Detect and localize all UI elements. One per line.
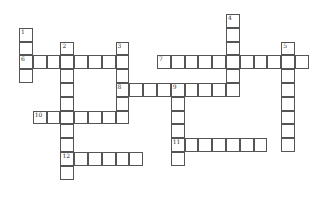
crossword-cell[interactable]	[171, 124, 185, 138]
crossword-cell[interactable]	[226, 42, 240, 56]
crossword-cell[interactable]: 1	[19, 28, 33, 42]
crossword-cell[interactable]	[129, 83, 143, 97]
crossword-cell[interactable]	[74, 111, 88, 125]
crossword-cell[interactable]	[171, 111, 185, 125]
crossword-cell[interactable]	[226, 28, 240, 42]
crossword-cell[interactable]	[102, 111, 116, 125]
crossword-cell[interactable]	[185, 83, 199, 97]
crossword-cell[interactable]	[281, 83, 295, 97]
crossword-cell[interactable]: 5	[281, 42, 295, 56]
crossword-cell[interactable]	[157, 83, 171, 97]
crossword-cell[interactable]	[116, 55, 130, 69]
clue-number: 3	[118, 43, 122, 49]
crossword-cell[interactable]	[254, 138, 268, 152]
crossword-cell[interactable]	[33, 55, 47, 69]
crossword-cell[interactable]	[281, 138, 295, 152]
crossword-cell[interactable]	[281, 111, 295, 125]
crossword-cell[interactable]	[240, 138, 254, 152]
crossword-cell[interactable]	[60, 138, 74, 152]
clue-number: 7	[159, 56, 163, 62]
crossword-cell[interactable]	[185, 138, 199, 152]
crossword-cell[interactable]	[88, 111, 102, 125]
clue-number: 9	[173, 84, 177, 90]
crossword-cell[interactable]	[19, 42, 33, 56]
clue-number: 4	[228, 15, 232, 21]
crossword-cell[interactable]	[116, 111, 130, 125]
crossword-cell[interactable]	[226, 55, 240, 69]
clue-number: 8	[118, 84, 122, 90]
clue-number: 12	[62, 153, 70, 159]
crossword-cell[interactable]	[281, 124, 295, 138]
crossword-cell[interactable]	[240, 55, 254, 69]
crossword-cell[interactable]: 7	[157, 55, 171, 69]
crossword-cell[interactable]	[226, 69, 240, 83]
crossword-cell[interactable]	[60, 55, 74, 69]
crossword-cell[interactable]	[185, 55, 199, 69]
crossword-cell[interactable]: 3	[116, 42, 130, 56]
crossword-cell[interactable]	[116, 69, 130, 83]
crossword-cell[interactable]	[47, 55, 61, 69]
clue-number: 6	[21, 56, 25, 62]
crossword-cell[interactable]	[60, 111, 74, 125]
crossword-cell[interactable]	[212, 83, 226, 97]
crossword-cell[interactable]	[60, 69, 74, 83]
crossword-cell[interactable]	[281, 55, 295, 69]
crossword-cell[interactable]	[143, 83, 157, 97]
crossword-cell[interactable]	[60, 166, 74, 180]
crossword-cell[interactable]: 4	[226, 14, 240, 28]
crossword-cell[interactable]	[88, 152, 102, 166]
crossword-cell[interactable]	[198, 83, 212, 97]
crossword-cell[interactable]	[74, 152, 88, 166]
crossword-cell[interactable]	[116, 97, 130, 111]
crossword-cell[interactable]: 9	[171, 83, 185, 97]
crossword-cell[interactable]	[129, 152, 143, 166]
crossword-cell[interactable]	[60, 83, 74, 97]
crossword-cell[interactable]	[88, 55, 102, 69]
crossword-cell[interactable]: 12	[60, 152, 74, 166]
clue-number: 10	[35, 112, 43, 118]
crossword-cell[interactable]	[281, 69, 295, 83]
crossword-cell[interactable]	[102, 55, 116, 69]
crossword-cell[interactable]	[171, 97, 185, 111]
clue-number: 2	[62, 43, 66, 49]
clue-number: 11	[173, 139, 181, 145]
crossword-cell[interactable]: 11	[171, 138, 185, 152]
crossword-cell[interactable]	[116, 152, 130, 166]
crossword-cell[interactable]	[267, 55, 281, 69]
crossword-cell[interactable]	[47, 111, 61, 125]
crossword-cell[interactable]	[198, 138, 212, 152]
clue-number: 5	[283, 43, 287, 49]
crossword-cell[interactable]	[60, 124, 74, 138]
crossword-cell[interactable]: 10	[33, 111, 47, 125]
crossword-cell[interactable]	[171, 55, 185, 69]
crossword-cell[interactable]	[226, 83, 240, 97]
crossword-cell[interactable]	[295, 55, 309, 69]
crossword-cell[interactable]	[19, 69, 33, 83]
crossword-cell[interactable]	[102, 152, 116, 166]
crossword-grid: 162123845791110	[0, 0, 324, 200]
crossword-cell[interactable]	[74, 55, 88, 69]
clue-number: 1	[21, 29, 25, 35]
crossword-cell[interactable]	[198, 55, 212, 69]
crossword-cell[interactable]	[254, 55, 268, 69]
crossword-cell[interactable]	[226, 138, 240, 152]
crossword-cell[interactable]: 6	[19, 55, 33, 69]
crossword-cell[interactable]: 8	[116, 83, 130, 97]
crossword-cell[interactable]: 2	[60, 42, 74, 56]
crossword-cell[interactable]	[281, 97, 295, 111]
crossword-cell[interactable]	[212, 55, 226, 69]
crossword-cell[interactable]	[171, 152, 185, 166]
crossword-cell[interactable]	[212, 138, 226, 152]
crossword-cell[interactable]	[60, 97, 74, 111]
